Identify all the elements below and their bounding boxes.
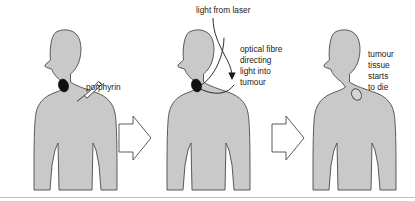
person-silhouette-1 — [34, 30, 117, 190]
label-optical-fibre-line-2: directing — [240, 55, 272, 65]
panel-1: porphyrin — [34, 30, 121, 190]
label-tumour-dies-line-4: to die — [368, 82, 389, 92]
label-tumour-dies-line-1: tumour — [368, 49, 394, 59]
person-silhouette-2 — [167, 30, 250, 190]
label-tumour-dies-line-2: tissue — [368, 60, 390, 70]
laser-arrow — [213, 18, 236, 80]
photodynamic-therapy-diagram: porphyrin light from laser optical fibre… — [0, 0, 415, 201]
label-optical-fibre-line-4: tumour — [240, 77, 266, 87]
panel-3: tumour tissue starts to die — [313, 30, 396, 190]
panel-2: light from laser optical fibre directing… — [167, 5, 283, 190]
diagram-canvas: porphyrin light from laser optical fibre… — [0, 0, 415, 201]
process-arrow-1 — [119, 116, 151, 160]
label-tumour-dies: tumour tissue starts to die — [368, 49, 394, 92]
label-optical-fibre-line-3: light into — [240, 66, 271, 76]
label-porphyrin: porphyrin — [86, 82, 121, 92]
process-arrow-2 — [272, 116, 304, 160]
label-optical-fibre-line-1: optical fibre — [240, 44, 283, 54]
label-optical-fibre: optical fibre directing light into tumou… — [240, 44, 283, 87]
label-light-from-laser: light from laser — [196, 5, 251, 15]
label-tumour-dies-line-3: starts — [368, 71, 388, 81]
